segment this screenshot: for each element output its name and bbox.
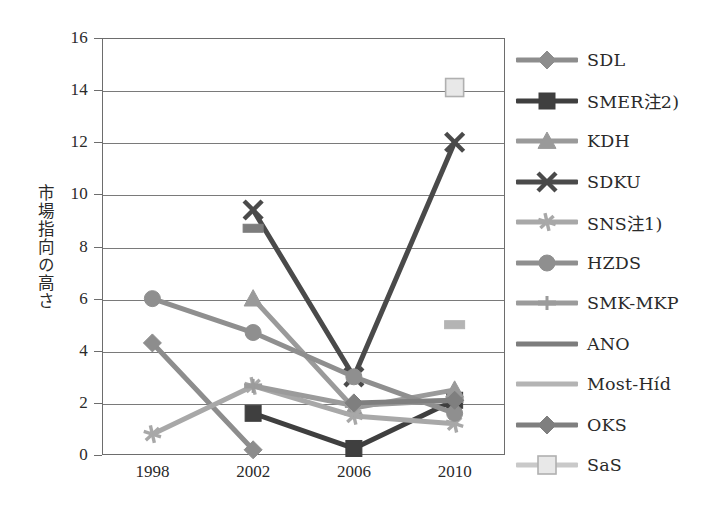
data-point: [144, 425, 161, 443]
legend-label: KDH: [587, 131, 630, 151]
y-axis-tick-mark: [94, 90, 102, 91]
y-axis-tick-mark: [94, 38, 102, 39]
y-axis-tick-mark: [94, 142, 102, 143]
legend-item-most-h-d[interactable]: Most-Híd: [516, 364, 702, 405]
legend-marker-icon: [516, 130, 578, 152]
legend-swatch: [516, 374, 578, 394]
legend-marker-icon: [516, 252, 578, 274]
x-axis-ticks: 1998200220062010: [102, 462, 505, 490]
legend-marker-icon: [538, 173, 556, 191]
series-most-h-d: [445, 321, 465, 329]
legend-label: SaS: [587, 455, 622, 475]
data-point: [245, 405, 261, 421]
data-series-layer: [102, 38, 505, 455]
legend-swatch: [516, 455, 578, 475]
data-point: [445, 321, 465, 329]
legend-marker-icon: [538, 132, 556, 148]
y-axis-tick-mark: [94, 351, 102, 352]
y-axis-title: 市場指向の高さ: [26, 184, 52, 310]
legend-swatch: [516, 293, 578, 313]
y-axis-tick-label: 12: [71, 132, 88, 152]
legend-item-sns-1-[interactable]: SNS注1): [516, 202, 702, 243]
chart-figure: 0246810121416 市場指向の高さ 1998200220062010 S…: [0, 0, 706, 516]
legend-label: SDKU: [587, 172, 641, 192]
legend-item-oks[interactable]: OKS: [516, 405, 702, 446]
data-point: [244, 290, 262, 306]
x-axis-tick-label: 2002: [236, 462, 270, 482]
legend-marker-icon: [516, 454, 578, 476]
legend-label: SNS注1): [587, 210, 662, 235]
legend-item-smer-2-[interactable]: SMER注2): [516, 81, 702, 122]
legend-swatch: [516, 253, 578, 273]
legend-label: ANO: [587, 334, 630, 354]
legend-marker-icon: [538, 213, 555, 231]
legend-swatch: [516, 91, 578, 111]
legend-label: HZDS: [587, 253, 641, 273]
legend-item-sdl[interactable]: SDL: [516, 40, 702, 81]
legend-marker-icon: [516, 49, 578, 71]
legend-label: SMER注2): [587, 88, 679, 113]
legend-swatch: [516, 334, 578, 354]
legend-swatch: [516, 50, 578, 70]
legend-item-sas[interactable]: SaS: [516, 445, 702, 486]
x-axis-tick-label: 2010: [438, 462, 472, 482]
legend-marker-icon: [516, 90, 578, 112]
y-axis-tick-label: 16: [71, 28, 88, 48]
legend-item-smk-mkp[interactable]: SMK-MKP: [516, 283, 702, 324]
y-axis-tick-label: 14: [71, 80, 88, 100]
y-axis-tick-mark: [94, 299, 102, 300]
legend-swatch: [516, 415, 578, 435]
legend-swatch: [516, 131, 578, 151]
y-axis-tick-label: 2: [79, 393, 88, 413]
series-sdku: [244, 133, 464, 386]
legend-swatch: [516, 212, 578, 232]
series-line: [152, 343, 253, 450]
x-axis-tick-label: 1998: [135, 462, 169, 482]
y-axis-tick-mark: [94, 403, 102, 404]
y-axis-tick-mark: [94, 194, 102, 195]
legend-item-hzds[interactable]: HZDS: [516, 243, 702, 284]
legend-label: SDL: [587, 50, 625, 70]
series-ano: [243, 224, 263, 232]
y-axis-tick-mark: [94, 455, 102, 456]
legend-marker-icon: [538, 456, 556, 474]
y-axis-tick-mark: [94, 247, 102, 248]
y-axis-tick-label: 8: [79, 237, 88, 257]
legend-swatch: [516, 172, 578, 192]
legend-marker-icon: [538, 416, 556, 434]
y-axis-tick-label: 10: [71, 184, 88, 204]
legend-label: SMK-MKP: [587, 293, 679, 313]
legend-marker-icon: [539, 93, 555, 109]
data-point: [346, 369, 362, 385]
series-sdl: [143, 334, 262, 459]
data-point: [244, 201, 262, 219]
legend-label: OKS: [587, 415, 627, 435]
data-point: [346, 440, 362, 456]
data-point: [243, 224, 263, 232]
legend-marker-icon: [538, 296, 556, 310]
legend-item-ano[interactable]: ANO: [516, 324, 702, 365]
data-point: [446, 79, 464, 97]
series-line: [354, 400, 455, 403]
y-axis-tick-label: 6: [79, 289, 88, 309]
legend-marker-icon: [516, 292, 578, 314]
legend-marker-icon: [516, 211, 578, 233]
x-axis-tick-label: 2006: [337, 462, 371, 482]
legend-item-kdh[interactable]: KDH: [516, 121, 702, 162]
y-axis-tick-label: 4: [79, 341, 88, 361]
legend-marker-icon: [516, 414, 578, 436]
legend-item-sdku[interactable]: SDKU: [516, 162, 702, 203]
data-point: [245, 325, 261, 341]
legend-marker-icon: [516, 171, 578, 193]
chart-legend: SDLSMER注2)KDHSDKUSNS注1)HZDSSMK-MKPANOMos…: [516, 40, 702, 486]
y-axis-tick-label: 0: [79, 445, 88, 465]
data-point: [144, 291, 160, 307]
series-sas: [446, 79, 464, 97]
legend-label: Most-Híd: [587, 374, 671, 394]
legend-marker-icon: [539, 255, 555, 271]
legend-marker-icon: [516, 373, 578, 395]
legend-marker-icon: [538, 51, 556, 69]
series-line: [253, 142, 455, 377]
legend-marker-icon: [516, 333, 578, 355]
